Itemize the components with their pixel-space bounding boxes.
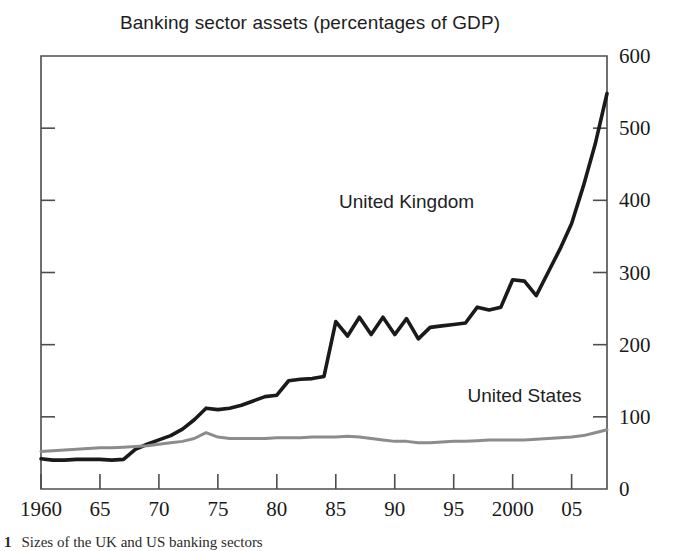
x-axis-tick-label: 90 xyxy=(384,497,405,521)
x-axis-tick-label: 95 xyxy=(443,497,464,521)
series-annotation-uk: United Kingdom xyxy=(339,191,474,212)
figure-caption-text: Sizes of the UK and US banking sectors xyxy=(22,534,263,550)
figure-container: Banking sector assets (percentages of GD… xyxy=(0,0,698,551)
y-axis-tick-label: 100 xyxy=(619,405,651,429)
plot-frame: 0100200300400500600196065707580859095200… xyxy=(20,44,651,521)
y-axis-tick-label: 0 xyxy=(619,477,630,501)
series-annotation-us: United States xyxy=(467,385,581,406)
chart-plot-area: 0100200300400500600196065707580859095200… xyxy=(0,0,698,551)
x-axis-tick-label: 2000 xyxy=(492,497,534,521)
x-axis-tick-label: 65 xyxy=(89,497,110,521)
series-line-united-states xyxy=(41,430,607,452)
y-axis-tick-label: 200 xyxy=(619,333,651,357)
y-axis-tick-label: 500 xyxy=(619,116,651,140)
x-axis-tick-label: 75 xyxy=(207,497,228,521)
x-axis-tick-label: 05 xyxy=(561,497,582,521)
x-axis-tick-label: 1960 xyxy=(20,497,62,521)
y-axis-tick-label: 600 xyxy=(619,44,651,68)
figure-caption-number: 1 xyxy=(4,534,12,550)
x-axis-tick-label: 80 xyxy=(266,497,287,521)
series-label-layer: United KingdomUnited States xyxy=(339,191,582,407)
x-axis-tick-label: 85 xyxy=(325,497,346,521)
figure-caption: 1Sizes of the UK and US banking sectors xyxy=(4,534,694,551)
x-axis-tick-label: 70 xyxy=(148,497,169,521)
y-axis-tick-label: 300 xyxy=(619,261,651,285)
y-axis-tick-label: 400 xyxy=(619,188,651,212)
